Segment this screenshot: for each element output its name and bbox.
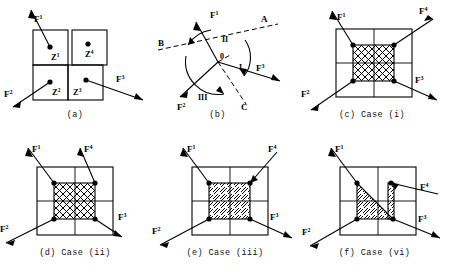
force-ray-f1 (25, 148, 54, 183)
force-label-f1: F1 (337, 12, 346, 23)
force-ray-f1 (328, 148, 357, 183)
zone-box-z4 (72, 30, 107, 65)
force-ray-f1 (193, 22, 218, 62)
zone-label-z1: Z1 (51, 52, 60, 62)
panel-e: F1 F2 F3 F4 (150, 138, 300, 250)
force-ray-f4 (394, 15, 433, 45)
panel-a-caption: (a) (0, 110, 150, 120)
zone-point-z1 (47, 44, 52, 49)
panel-e-caption: (e) Case (iii) (150, 248, 300, 258)
crosshatch-region (353, 45, 394, 81)
panel-f: F1 F2 F3 F4 (300, 138, 449, 250)
force-label-f4: F4 (84, 144, 93, 155)
force-ray-f2 (160, 219, 209, 248)
force-label-f3: F3 (118, 212, 127, 223)
force-ray-f2 (6, 219, 54, 246)
zone-point-z4 (85, 41, 90, 46)
force-ray-f3 (86, 80, 143, 100)
vertical-bar-region (388, 183, 394, 219)
line-label-a: A (261, 14, 268, 24)
zone-point-z3 (83, 77, 88, 82)
dashed-line-ab (158, 24, 278, 50)
force-label-f3: F3 (116, 74, 125, 85)
panel-f-caption: (f) Case (vi) (300, 248, 449, 258)
force-label-f3: F3 (415, 75, 424, 86)
force-label-f3: F3 (256, 63, 265, 74)
force-label-f4: F4 (420, 182, 429, 193)
force-label-f1: F1 (34, 14, 43, 25)
force-label-f1: F1 (335, 144, 344, 155)
line-label-b: B (158, 38, 164, 48)
panel-c: F1 F2 F3 F4 (295, 0, 449, 115)
force-ray-f1 (180, 148, 209, 183)
force-label-f1: F1 (32, 144, 41, 155)
force-label-f2: F2 (302, 227, 311, 238)
panel-b-caption: (b) (140, 110, 295, 120)
panel-c-caption: (c) Case (i) (295, 110, 449, 120)
force-label-f4: F4 (268, 144, 277, 155)
panel-a: F1 F2 F3 Z1 Z4 Z2 Z3 (0, 0, 150, 115)
zone-label-z2: Z2 (52, 87, 61, 97)
zone-point-z2 (47, 79, 52, 84)
force-label-f3: F3 (418, 214, 427, 225)
force-ray-f2 (13, 82, 50, 108)
diagonal-hatch-region (209, 183, 250, 219)
force-ray-f2 (310, 219, 357, 249)
force-label-f4: F4 (419, 6, 428, 17)
force-label-f2: F2 (0, 224, 9, 235)
region-label-iii: III (198, 93, 207, 102)
force-label-f1: F1 (210, 10, 219, 21)
panel-b: F1 F2 F3 A B C 0 I II III (140, 0, 295, 115)
force-label-f2: F2 (301, 89, 310, 100)
force-label-f2: F2 (4, 89, 13, 100)
origin-label: 0 (220, 52, 224, 61)
force-label-f3: F3 (270, 212, 279, 223)
force-ray-f2 (311, 81, 353, 111)
panel-d: F1 F2 F3 F4 (0, 138, 150, 250)
figure-panels-container: F1 F2 F3 Z1 Z4 Z2 Z3 (a) (0, 0, 449, 275)
force-ray-f4 (391, 183, 438, 194)
zone-label-z4: Z4 (85, 49, 94, 59)
region-label-ii: II (222, 35, 228, 44)
region-label-i: I (239, 63, 242, 72)
force-label-f1: F1 (187, 144, 196, 155)
force-label-f2: F2 (152, 226, 161, 237)
panel-d-caption: (d) Case (ii) (0, 248, 150, 258)
force-ray-f3 (218, 62, 280, 81)
crosshatch-region (54, 183, 95, 219)
zone-label-z3: Z3 (73, 87, 82, 97)
